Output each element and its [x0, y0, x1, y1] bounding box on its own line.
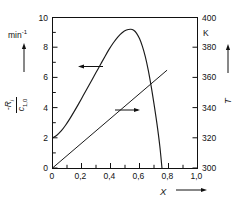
x-tick-0-6: 0,6 — [133, 172, 145, 181]
y-left-tick-10: 10 — [30, 14, 48, 23]
plot-frame — [53, 18, 198, 169]
x-tick-1-0: 1,0 — [191, 172, 203, 181]
y-left-tick-0: 0 — [30, 164, 48, 173]
y-right-tick-400: 400 — [202, 14, 216, 23]
y-left-unit-text: min — [8, 30, 22, 40]
y-left-title-denominator-sub: 1,0 — [22, 99, 28, 107]
x-axis-right-arrow — [176, 188, 207, 192]
x-axis-title: X — [160, 186, 166, 197]
left-axis-up-arrow — [22, 43, 26, 72]
y-right-tick-380: 380 — [202, 43, 216, 52]
x-tick-0-4: 0,4 — [104, 172, 116, 181]
y-right-unit-label: K — [203, 29, 209, 38]
chart-figure: 10 8 6 4 2 0 400 380 360 340 320 300 0 0… — [0, 0, 242, 202]
y-left-unit-exponent: -1 — [22, 29, 27, 35]
y-right-tick-360: 360 — [202, 73, 216, 82]
x-tick-0: 0 — [50, 172, 55, 181]
y-left-unit-label: min-1 — [8, 29, 27, 39]
right-axis-up-arrow — [226, 44, 230, 73]
y-right-tick-320: 320 — [202, 134, 216, 143]
y-left-axis-title: -Ri c1,0 — [0, 81, 33, 129]
y-left-tick-8: 8 — [30, 43, 48, 52]
y-right-tick-300: 300 — [202, 164, 216, 173]
x-tick-0-2: 0,2 — [75, 172, 87, 181]
y-right-axis-title: T — [222, 88, 240, 114]
y-left-tick-2: 2 — [30, 134, 48, 143]
y-right-tick-340: 340 — [202, 104, 216, 113]
y-left-title-numerator-sub: i — [9, 100, 15, 101]
y-left-title-numerator: -R — [3, 101, 13, 110]
x-tick-0-8: 0,8 — [162, 172, 174, 181]
y-left-title-denominator: c — [16, 107, 26, 111]
